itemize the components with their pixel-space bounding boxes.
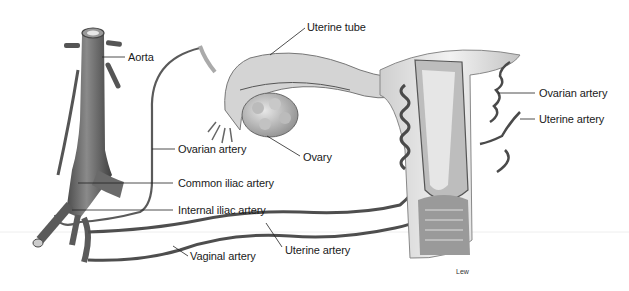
label-common-iliac-artery: Common iliac artery (178, 177, 274, 190)
anatomy-figure: Aorta Uterine tube Ovarian artery Ovary … (0, 0, 629, 291)
label-uterine-tube: Uterine tube (307, 21, 366, 34)
uterine-tube-drawing (200, 46, 402, 143)
label-ovarian-artery-right: Ovarian artery (539, 87, 607, 100)
uterine-artery-drawing (88, 150, 423, 232)
label-vaginal-artery: Vaginal artery (190, 250, 256, 263)
aorta-drawing (33, 28, 124, 262)
artist-credit: Lew (456, 268, 469, 275)
label-ovary: Ovary (303, 151, 332, 164)
label-internal-iliac-artery: Internal iliac artery (178, 204, 266, 217)
label-ovarian-artery-left: Ovarian artery (178, 143, 246, 156)
ovary-drawing (242, 93, 298, 137)
label-uterine-artery-right: Uterine artery (539, 113, 604, 126)
label-uterine-artery-bottom: Uterine artery (285, 244, 350, 257)
label-aorta: Aorta (128, 51, 154, 64)
